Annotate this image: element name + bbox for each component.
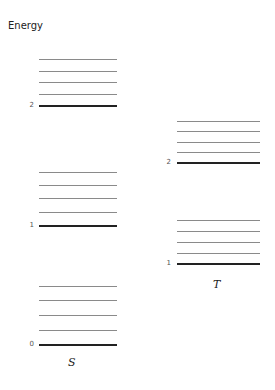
- vibrational-level-line: [177, 231, 260, 232]
- vibrational-level-line: [177, 152, 260, 153]
- vibrational-level-line: [39, 59, 117, 60]
- manifold-label: T: [213, 278, 220, 291]
- vibrational-level-line: [39, 330, 117, 331]
- vibrational-level-line: [39, 198, 117, 199]
- vibrational-level-line: [177, 220, 260, 221]
- electronic-level-line: [177, 162, 260, 164]
- vibrational-level-line: [177, 253, 260, 254]
- vibrational-level-line: [39, 172, 117, 173]
- electronic-level-line: [177, 263, 260, 265]
- level-number-label: 0: [22, 340, 34, 348]
- electronic-level-line: [39, 344, 117, 346]
- level-number-label: 2: [159, 158, 171, 166]
- vibrational-level-line: [39, 315, 117, 316]
- level-number-label: 1: [22, 221, 34, 229]
- level-number-label: 2: [22, 101, 34, 109]
- vibrational-level-line: [39, 94, 117, 95]
- vibrational-level-line: [177, 121, 260, 122]
- vibrational-level-line: [39, 212, 117, 213]
- vibrational-level-line: [177, 131, 260, 132]
- vibrational-level-line: [177, 242, 260, 243]
- vibrational-level-line: [39, 286, 117, 287]
- vibrational-level-line: [39, 300, 117, 301]
- manifold-label: S: [68, 356, 76, 369]
- vibrational-level-line: [177, 142, 260, 143]
- vibrational-level-line: [39, 82, 117, 83]
- level-number-label: 1: [159, 259, 171, 267]
- vibrational-level-line: [39, 185, 117, 186]
- electronic-level-line: [39, 225, 117, 227]
- electronic-level-line: [39, 105, 117, 107]
- energy-axis-title: Energy: [8, 20, 43, 31]
- vibrational-level-line: [39, 71, 117, 72]
